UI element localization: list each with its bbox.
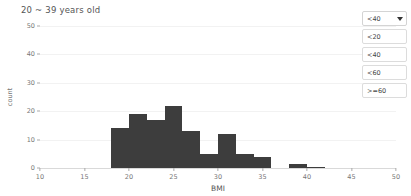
age-group-option[interactable]: <60 (362, 65, 407, 80)
page-title: 20 ~ 39 years old (21, 5, 100, 15)
age-group-select[interactable]: <40 (362, 11, 407, 26)
y-axis-label: count (6, 88, 14, 106)
bar (307, 167, 325, 168)
age-group-option[interactable]: >=60 (362, 83, 407, 98)
y-tick-label: 50 (27, 22, 40, 30)
bar (218, 134, 236, 168)
bar (147, 120, 165, 168)
y-tick-label: 10 (27, 136, 40, 144)
gridline (40, 83, 396, 84)
gridline (40, 111, 396, 112)
age-group-selected-value: <40 (367, 15, 381, 23)
bar (129, 114, 147, 168)
bar (200, 154, 218, 168)
x-tick-label: 25 (169, 168, 177, 181)
age-group-option-list: <20<40<60>=60 (362, 29, 407, 98)
x-tick-label: 10 (36, 168, 44, 181)
x-tick-label: 20 (125, 168, 133, 181)
x-axis-label: BMI (211, 184, 225, 193)
bar (254, 157, 272, 168)
x-tick-label: 30 (214, 168, 222, 181)
y-tick-label: 20 (27, 107, 40, 115)
x-tick-label: 35 (258, 168, 266, 181)
bar (289, 164, 307, 168)
chart-page: 20 ~ 39 years old 01020304050 1015202530… (0, 0, 411, 196)
y-tick-label: 40 (27, 50, 40, 58)
bar (111, 128, 129, 168)
age-group-option[interactable]: <20 (362, 29, 407, 44)
x-tick-label: 40 (303, 168, 311, 181)
bar (165, 106, 183, 168)
x-tick-label: 15 (80, 168, 88, 181)
age-group-filter: <40 <20<40<60>=60 (362, 11, 407, 98)
bar (182, 131, 200, 168)
y-tick-label: 30 (27, 79, 40, 87)
gridline (40, 26, 396, 27)
bar (236, 154, 254, 168)
chevron-down-icon[interactable] (397, 17, 403, 21)
histogram-plot: 01020304050 101520253035404550 BMI (40, 26, 396, 169)
x-tick-label: 45 (347, 168, 355, 181)
x-tick-label: 50 (392, 168, 400, 181)
age-group-option[interactable]: <40 (362, 47, 407, 62)
gridline (40, 54, 396, 55)
